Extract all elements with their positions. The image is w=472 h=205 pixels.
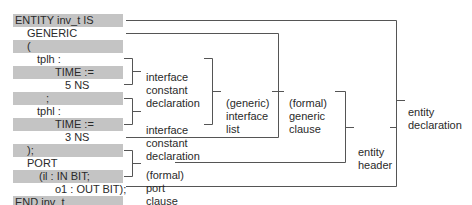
label-formal-generic-clause: (formal)genericclause: [289, 71, 327, 149]
label-entity-header: entityheader: [358, 120, 392, 185]
label-formal-port-clause: (formal)portclause: [146, 143, 184, 205]
label-entity-declaration: entitydeclaration: [408, 80, 462, 145]
label-generic-interface-list: (generic)interfacelist: [226, 71, 269, 149]
